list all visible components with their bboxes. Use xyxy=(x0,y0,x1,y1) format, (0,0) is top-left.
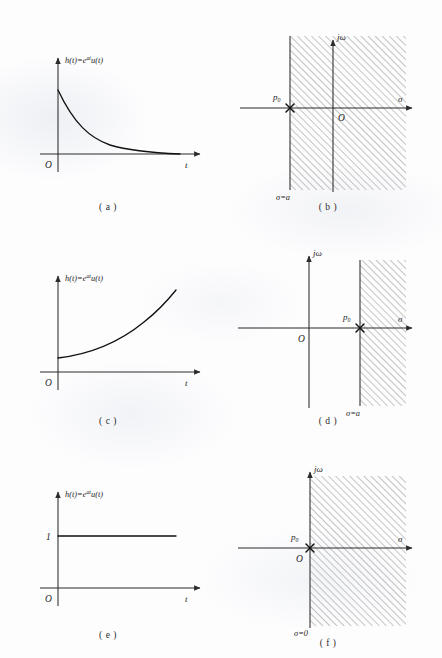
panel-c-plot: h(t)=eatu(t) t O xyxy=(34,262,209,402)
panel-d-origin-label: O xyxy=(298,334,305,344)
panel-a: h(t)=eatu(t) t O xyxy=(34,44,209,184)
panel-e-plot: h(t)=eatu(t) 1 t O xyxy=(34,478,209,618)
panel-f-plot: p0 O jω σ σ=0 xyxy=(232,458,422,636)
panel-c: h(t)=eatu(t) t O xyxy=(34,262,209,402)
panel-f-origin-label: O xyxy=(296,554,303,564)
panel-d-sigma-label: σ xyxy=(398,314,403,324)
panel-c-caption: ( c ) xyxy=(68,416,148,426)
panel-a-x-axis-label: t xyxy=(185,160,188,170)
panel-f-caption: ( f ) xyxy=(288,638,368,648)
panel-e-origin-label: O xyxy=(45,594,52,604)
figure-grid: h(t)=eatu(t) t O ( a ) xyxy=(0,0,442,658)
panel-b-roc-boundary-label: σ=a xyxy=(276,193,290,202)
panel-b-sigma-label: σ xyxy=(398,94,403,104)
panel-e-signal-label: h(t)=eatu(t) xyxy=(65,489,103,499)
panel-a-signal-label: h(t)=eatu(t) xyxy=(65,55,103,65)
panel-e-value-label: 1 xyxy=(46,532,51,542)
panel-c-signal-label: h(t)=eatu(t) xyxy=(65,273,103,283)
panel-e-x-axis-label: t xyxy=(185,594,188,604)
panel-f-sigma-label: σ xyxy=(398,534,403,544)
panel-b-jomega-label: jω xyxy=(336,32,346,42)
panel-b-caption: ( b ) xyxy=(288,202,368,212)
panel-e-caption: ( e ) xyxy=(68,630,148,640)
panel-e: h(t)=eatu(t) 1 t O xyxy=(34,478,209,618)
panel-f-roc-boundary-label: σ=0 xyxy=(294,629,309,638)
panel-f-jomega-label: jω xyxy=(313,464,323,474)
panel-b-origin-label: O xyxy=(338,113,345,123)
panel-b-plot: p0 O jω σ σ=a xyxy=(232,28,422,200)
panel-f-pole-label: p0 xyxy=(290,532,299,543)
panel-a-plot: h(t)=eatu(t) t O xyxy=(34,44,209,184)
panel-c-curve xyxy=(58,290,176,358)
panel-a-curve xyxy=(58,90,180,154)
panel-f: p0 O jω σ σ=0 xyxy=(232,458,422,636)
panel-c-x-axis-label: t xyxy=(185,378,188,388)
panel-b: p0 O jω σ σ=a xyxy=(232,28,422,200)
panel-b-pole-label: p0 xyxy=(272,92,281,103)
panel-d-jomega-label: jω xyxy=(312,248,322,258)
panel-d-caption: ( d ) xyxy=(288,416,368,426)
panel-a-origin-label: O xyxy=(45,160,52,170)
panel-d-pole-label: p0 xyxy=(342,312,351,323)
panel-d-plot: p0 O jω σ σ=a xyxy=(232,244,422,416)
panel-a-caption: ( a ) xyxy=(68,202,148,212)
panel-d: p0 O jω σ σ=a xyxy=(232,244,422,416)
panel-b-roc-region xyxy=(290,36,406,190)
panel-f-roc-region xyxy=(310,476,406,626)
panel-c-origin-label: O xyxy=(45,378,52,388)
panel-d-roc-region xyxy=(360,260,406,406)
